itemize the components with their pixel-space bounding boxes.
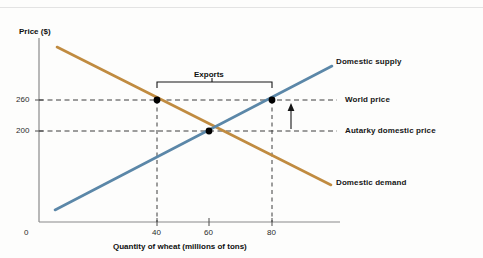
figure-container: Price ($) Quantity of wheat (millions of… — [0, 0, 483, 258]
marker-autarky-equilibrium — [206, 128, 213, 135]
marker-demand-at-world-price — [154, 97, 161, 104]
x-axis-title: Quantity of wheat (millions of tons) — [113, 242, 247, 251]
y-tick-label-200: 200 — [16, 126, 29, 135]
price-increase-arrow-head — [288, 103, 295, 111]
x-tick-label-0: 0 — [24, 228, 28, 237]
exports-label: Exports — [194, 70, 224, 79]
exports-bracket — [157, 78, 272, 88]
autarky-domestic-price-label: Autarky domestic price — [345, 126, 436, 135]
x-tick-label-80: 80 — [267, 228, 276, 237]
x-tick-label-60: 60 — [204, 228, 213, 237]
domestic-demand-curve — [57, 47, 331, 185]
y-tick-label-260: 260 — [16, 95, 29, 104]
marker-supply-at-world-price — [269, 97, 276, 104]
domestic-supply-curve — [55, 66, 332, 210]
world-price-label: World price — [345, 95, 390, 104]
y-axis-title: Price ($) — [19, 27, 51, 36]
domestic-supply-label: Domestic supply — [336, 57, 402, 66]
domestic-demand-label: Domestic demand — [336, 178, 406, 187]
x-tick-label-40: 40 — [152, 228, 161, 237]
